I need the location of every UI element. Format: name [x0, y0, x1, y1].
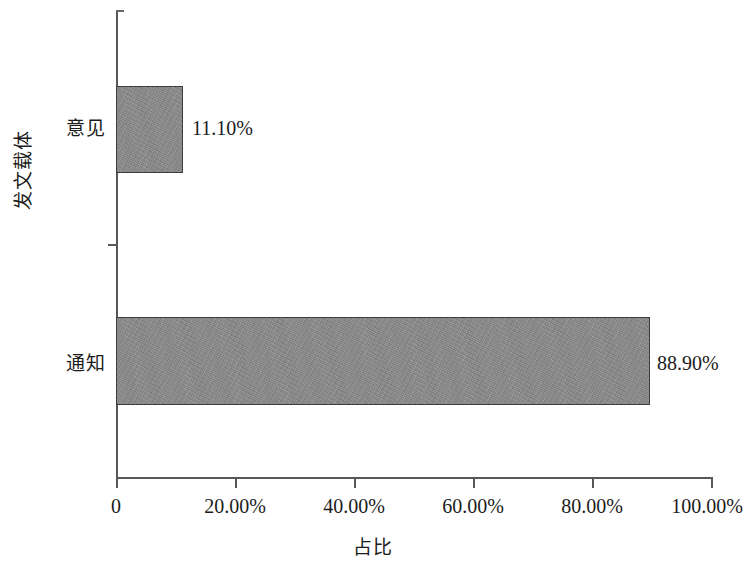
- value-label-yijian: 11.10%: [192, 116, 253, 140]
- x-axis-title: 占比: [0, 535, 746, 559]
- x-axis-tick: [116, 479, 118, 488]
- value-label-tongzhi: 88.90%: [657, 351, 719, 375]
- x-axis-tick: [592, 479, 594, 488]
- y-axis-top-tick: [116, 10, 124, 12]
- x-axis-line: [116, 477, 713, 479]
- x-axis-tick: [354, 479, 356, 488]
- x-axis-tick: [473, 479, 475, 488]
- x-axis-tick: [235, 479, 237, 488]
- category-label-tongzhi: 通知: [0, 351, 105, 375]
- y-axis-category-tick: [108, 244, 117, 246]
- bar-tongzhi: [116, 317, 650, 405]
- x-tick-label-40: 40.00%: [323, 494, 385, 518]
- bar-yijian: [116, 86, 183, 173]
- x-axis-tick: [711, 479, 713, 488]
- y-axis-title: 发文载体: [12, 186, 34, 210]
- x-tick-label-0: 0: [111, 494, 121, 518]
- bar-chart: 意见 11.10% 通知 88.90% 0 20.00% 40.00% 60.0…: [0, 0, 746, 564]
- x-tick-label-100: 100.00%: [671, 494, 743, 518]
- x-tick-label-80: 80.00%: [561, 494, 623, 518]
- x-tick-label-20: 20.00%: [204, 494, 266, 518]
- x-tick-label-60: 60.00%: [442, 494, 504, 518]
